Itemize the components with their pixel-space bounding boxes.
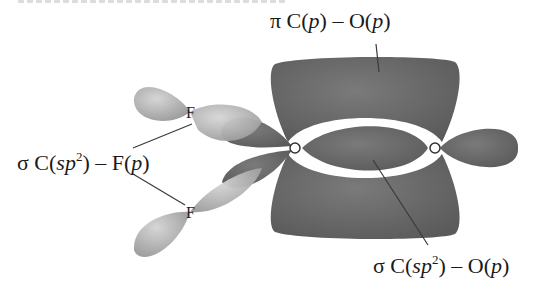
label-italic: sp (56, 150, 76, 175)
oxygen-lone-pair-lobe (440, 129, 518, 167)
label-italic: p (491, 253, 502, 278)
label-italic: p (309, 8, 320, 33)
label-pi-co: π C(p) – O(p) (270, 10, 390, 32)
oxygen-atom (430, 143, 440, 153)
label-italic: p (372, 8, 383, 33)
label-text: ) (142, 150, 149, 175)
greek-sigma: σ (17, 150, 29, 175)
label-italic: p (131, 150, 142, 175)
lower-fluorine-orbitals (134, 168, 262, 257)
leader-sigma-cf-lower (133, 174, 185, 205)
label-sigma-cf: σ C(sp2) – F(p) (17, 150, 150, 174)
label-italic: sp (412, 253, 432, 278)
label-sigma-co: σ C(sp2) – O(p) (373, 253, 509, 277)
upper-fluorine-orbitals (134, 87, 262, 141)
greek-sigma: σ (373, 253, 385, 278)
label-text: ) (383, 8, 390, 33)
greek-pi: π (270, 8, 281, 33)
f-upper-back-lobe (134, 87, 190, 121)
sigma-co-lobe (302, 126, 428, 170)
label-text: C( (390, 253, 412, 278)
label-text: ) – O( (438, 253, 491, 278)
carbon-atom (290, 143, 300, 153)
f-lower-back-lobe (134, 212, 190, 257)
label-text: ) – F( (82, 150, 131, 175)
label-text: ) (502, 253, 509, 278)
label-text: C( (287, 8, 309, 33)
label-text: C( (34, 150, 56, 175)
label-text: ) – O( (320, 8, 373, 33)
fluorine-atom-upper: F (186, 104, 195, 121)
leader-sigma-cf-upper (133, 124, 192, 148)
fluorine-atom-lower: F (186, 204, 195, 221)
